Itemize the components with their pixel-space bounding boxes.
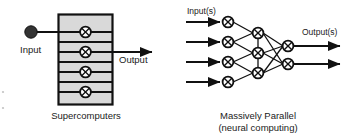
network-output-nodes: [283, 41, 294, 70]
crossed-circle-icon: [253, 28, 264, 39]
crossed-circle-icon: [223, 37, 234, 48]
network-input-arrows: [186, 22, 220, 82]
crossed-circle-icon: [283, 59, 294, 70]
hidden-to-output-edges: [263, 33, 283, 73]
network-output-label: Output(s): [302, 27, 337, 38]
crossed-circle-icon: [223, 17, 234, 28]
network-input-nodes: [223, 17, 234, 88]
input-dot-icon: [25, 26, 37, 38]
scan-edge-artifacts: [2, 91, 4, 109]
network-hidden-nodes: [253, 28, 264, 79]
crossed-circle-icon: [80, 27, 91, 38]
crossed-circle-icon: [253, 48, 264, 59]
supercomputer-input-label: Input: [20, 44, 41, 55]
input-to-hidden-edges: [233, 22, 253, 82]
network-caption-line2: (neural computing): [196, 122, 320, 134]
crossed-circle-icon: [223, 77, 234, 88]
network-output-arrows: [294, 46, 340, 64]
crossed-circle-icon: [80, 67, 91, 78]
supercomputer-caption: Supercomputers: [34, 110, 138, 122]
crossed-circle-icon: [253, 68, 264, 79]
network-caption-line1: Massively Parallel: [196, 110, 320, 122]
crossed-circle-icon: [283, 41, 294, 52]
crossed-circle-icon: [80, 87, 91, 98]
crossed-circle-icon: [223, 57, 234, 68]
figure-canvas: Input Output Supercomputers Input(s) Out…: [0, 0, 357, 139]
network-input-label: Input(s): [187, 6, 216, 17]
supercomputer-output-label: Output: [119, 54, 148, 65]
crossed-circle-icon: [80, 47, 91, 58]
